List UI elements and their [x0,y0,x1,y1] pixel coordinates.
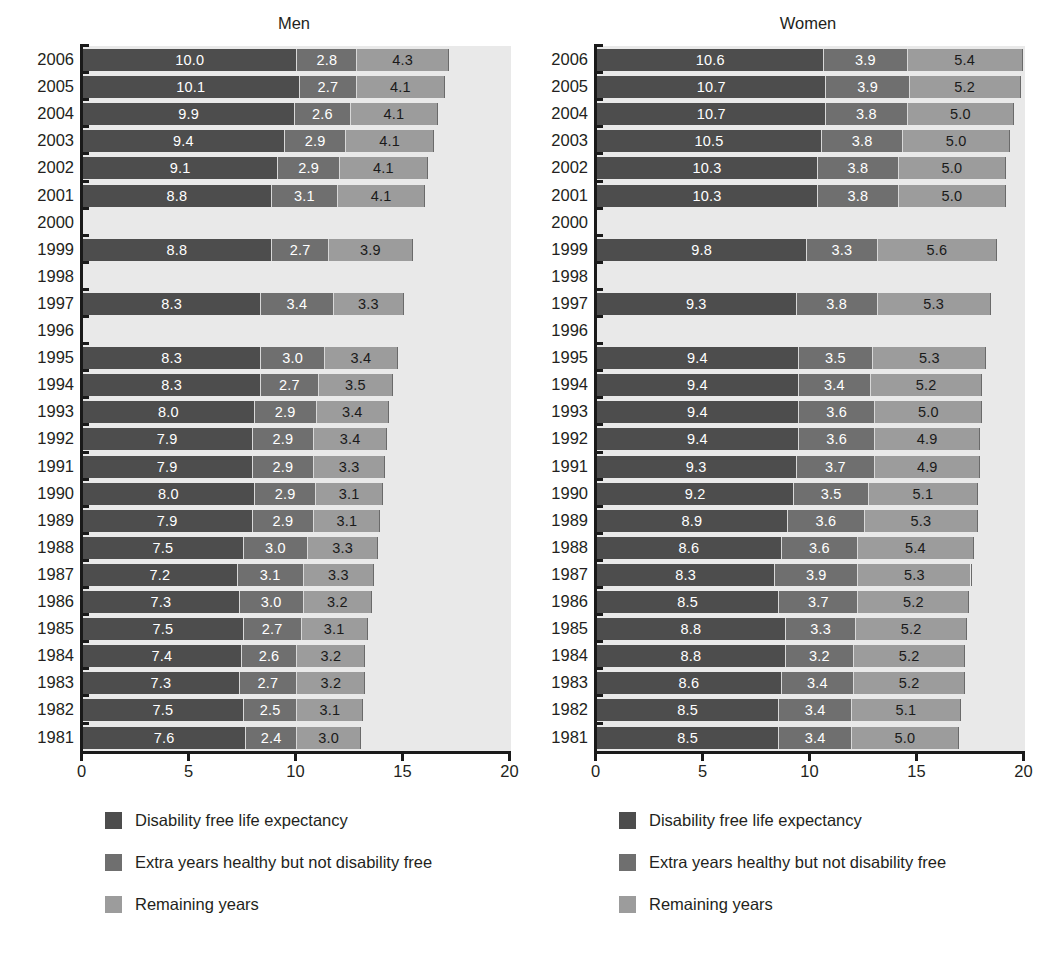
year-label: 2005 [37,73,74,100]
stacked-bar: 8.83.14.1 [83,185,425,207]
bar-segment-extra-healthy: 3.0 [260,347,324,369]
bar-value-label: 4.1 [371,188,392,204]
stacked-bar: 7.33.03.2 [83,591,372,613]
bar-segment-remaining: 5.2 [853,645,964,667]
bar-segment-extra-healthy: 2.7 [271,239,329,261]
chart-row: 10.12.74.1 [83,73,511,100]
bar-segment-disability-free: 8.5 [597,699,778,721]
legend-item[interactable]: Remaining years [619,893,773,915]
bar-segment-disability-free: 10.6 [597,49,823,71]
bar-segment-remaining: 3.0 [296,727,360,749]
bar-segment-remaining: 3.4 [324,347,397,369]
year-label: 1996 [551,317,588,344]
y-axis-tick [594,234,603,237]
bar-value-label: 5.2 [954,79,975,95]
bar-segment-extra-healthy: 3.2 [785,645,853,667]
y-axis-tick [594,532,603,535]
y-axis-tick [594,71,603,74]
bar-value-label: 9.2 [685,486,706,502]
stacked-bar: 10.33.85.0 [597,157,1006,179]
bar-value-label: 5.0 [946,133,967,149]
x-axis-tick [80,754,83,761]
y-axis-tick [80,667,89,670]
bar-segment-remaining: 5.0 [902,130,1009,152]
legend-item[interactable]: Extra years healthy but not disability f… [619,851,946,873]
bar-value-label: 2.7 [258,675,279,691]
bar-value-label: 2.9 [275,404,296,420]
stacked-bar: 9.42.94.1 [83,130,434,152]
stacked-bar: 9.33.74.9 [597,456,980,478]
legend-item[interactable]: Disability free life expectancy [619,809,862,831]
chart-row [83,317,511,344]
bar-segment-disability-free: 7.9 [83,456,252,478]
stacked-bar: 9.43.64.9 [597,428,980,450]
bar-segment-disability-free: 10.7 [597,76,825,98]
plot-area-men: 10.02.84.310.12.74.19.92.64.19.42.94.19.… [80,46,511,754]
y-axis-tick [80,261,89,264]
bar-segment-extra-healthy: 3.4 [781,672,854,694]
bar-value-label: 8.8 [681,621,702,637]
bar-value-label: 5.2 [903,594,924,610]
chart-row: 8.53.45.0 [597,724,1025,751]
bar-value-label: 3.9 [857,79,878,95]
year-label: 1997 [37,290,74,317]
bar-segment-extra-healthy: 3.7 [796,456,875,478]
legend-item[interactable]: Disability free life expectancy [105,809,348,831]
year-label: 2004 [551,100,588,127]
bar-value-label: 9.4 [687,377,708,393]
bar-segment-extra-healthy: 3.5 [798,347,873,369]
y-axis-tick [594,44,603,47]
bar-segment-remaining: 5.4 [907,49,1022,71]
x-axis-tick [808,754,811,761]
y-axis-tick [80,451,89,454]
bar-value-label: 2.9 [273,513,294,529]
x-axis-tick [701,754,704,761]
chart-row: 9.33.85.3 [597,290,1025,317]
chart-row: 7.92.93.1 [83,507,511,534]
bar-segment-extra-healthy: 2.8 [296,49,356,71]
bar-segment-extra-healthy: 3.3 [785,618,855,640]
bar-value-label: 7.6 [154,730,175,746]
bar-value-label: 8.8 [167,188,188,204]
year-label: 1982 [551,696,588,723]
bar-value-label: 4.1 [373,160,394,176]
legend-item[interactable]: Extra years healthy but not disability f… [105,851,432,873]
bar-value-label: 5.2 [899,648,920,664]
x-axis-tick-label: 0 [591,762,600,781]
year-label: 1984 [37,642,74,669]
bar-segment-extra-healthy: 3.0 [243,537,307,559]
bar-segment-extra-healthy: 3.9 [774,564,857,586]
bar-segment-extra-healthy: 3.8 [817,157,898,179]
bar-value-label: 9.3 [686,459,707,475]
x-axis-tick-label: 20 [1014,762,1032,781]
chart-row: 8.63.65.4 [597,534,1025,561]
bar-segment-extra-healthy: 2.7 [260,374,318,396]
bar-segment-disability-free: 9.4 [83,130,284,152]
y-axis-tick [80,478,89,481]
bar-segment-extra-healthy: 3.8 [825,103,906,125]
bar-value-label: 3.8 [848,160,869,176]
legend-item[interactable]: Remaining years [105,893,259,915]
bar-value-label: 7.4 [152,648,173,664]
bar-value-label: 2.6 [312,106,333,122]
bar-value-label: 10.7 [697,79,726,95]
y-axis-tick [594,586,603,589]
year-label: 1995 [37,344,74,371]
bar-value-label: 9.8 [691,242,712,258]
year-label: 2005 [551,73,588,100]
bar-value-label: 3.0 [261,594,282,610]
bar-segment-extra-healthy: 3.3 [806,239,876,261]
bar-segment-extra-healthy: 2.9 [277,157,339,179]
bar-segment-disability-free: 9.3 [597,456,796,478]
y-axis-tick [594,98,603,101]
year-label: 1981 [551,724,588,751]
bar-value-label: 7.9 [157,513,178,529]
bar-segment-disability-free: 10.1 [83,76,299,98]
chart-row: 8.82.73.9 [83,236,511,263]
chart-row: 9.43.65.0 [597,398,1025,425]
year-label: 1985 [37,615,74,642]
stacked-bar: 9.92.64.1 [83,103,438,125]
stacked-bar: 10.02.84.3 [83,49,449,71]
x-axis-tick [187,754,190,761]
chart-row: 7.42.63.2 [83,642,511,669]
